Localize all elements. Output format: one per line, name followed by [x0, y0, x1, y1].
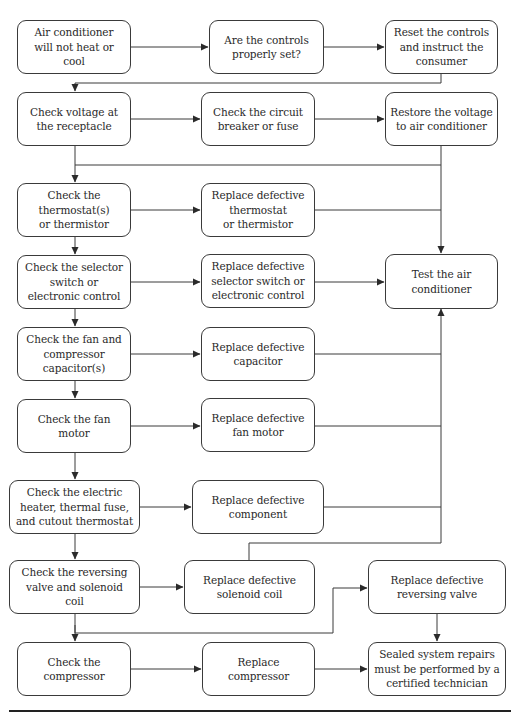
- node-controls-set-question: Are the controls properly set?: [209, 20, 324, 74]
- node-check-fan-motor: Check the fan motor: [17, 399, 131, 453]
- flowchart-canvas: Air conditioner will not heat or cool Ar…: [0, 0, 521, 714]
- node-test-air-conditioner: Test the air conditioner: [385, 254, 498, 309]
- bottom-rule-divider: [9, 710, 511, 712]
- node-check-compressor: Check the compressor: [17, 642, 131, 696]
- node-check-capacitor: Check the fan and compressor capacitor(s…: [17, 327, 131, 381]
- node-replace-reversing-valve: Replace defective reversing valve: [368, 560, 506, 614]
- node-reset-controls: Reset the controls and instruct the cons…: [385, 20, 498, 74]
- node-check-breaker: Check the circuit breaker or fuse: [201, 92, 315, 146]
- node-check-voltage: Check voltage at the receptacle: [17, 92, 131, 146]
- node-check-thermostat: Check the thermostat(s) or thermistor: [17, 183, 131, 237]
- node-replace-thermostat: Replace defective thermostat or thermist…: [201, 183, 315, 237]
- node-replace-compressor: Replace compressor: [202, 642, 315, 696]
- node-check-selector: Check the selector switch or electronic …: [17, 255, 131, 309]
- node-replace-selector: Replace defective selector switch or ele…: [201, 254, 315, 308]
- node-replace-component: Replace defective component: [192, 480, 324, 534]
- node-restore-voltage: Restore the voltage to air conditioner: [385, 92, 498, 146]
- node-check-heater: Check the electric heater, thermal fuse,…: [9, 480, 140, 534]
- node-sealed-system-repairs: Sealed system repairs must be performed …: [368, 642, 506, 696]
- node-replace-capacitor: Replace defective capacitor: [201, 327, 315, 381]
- node-replace-solenoid: Replace defective solenoid coil: [184, 560, 315, 614]
- node-start-problem: Air conditioner will not heat or cool: [17, 20, 131, 74]
- node-replace-fan-motor: Replace defective fan motor: [201, 398, 315, 452]
- node-check-reversing-valve: Check the reversing valve and solenoid c…: [9, 560, 140, 614]
